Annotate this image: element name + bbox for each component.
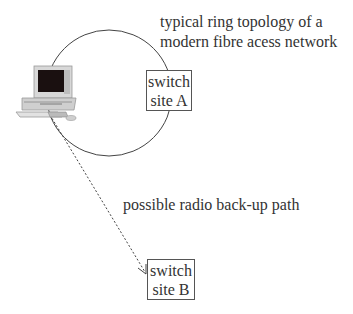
switch-a-line-1: switch xyxy=(147,72,191,91)
switch-b-line-2: site B xyxy=(148,280,194,299)
switch-site-b: switch site B xyxy=(147,259,195,300)
radio-path-caption: possible radio back-up path xyxy=(123,195,299,215)
switch-b-line-1: switch xyxy=(148,261,194,280)
ring-caption-line-1: typical ring topology of a xyxy=(160,12,337,32)
switch-a-line-2: site A xyxy=(147,91,191,110)
ring-caption-line-2: modern fibre acess network xyxy=(160,32,337,52)
ring-caption: typical ring topology of a modern fibre … xyxy=(160,12,337,52)
desktop-computer-icon xyxy=(16,66,76,121)
switch-site-a: switch site A xyxy=(146,70,192,111)
